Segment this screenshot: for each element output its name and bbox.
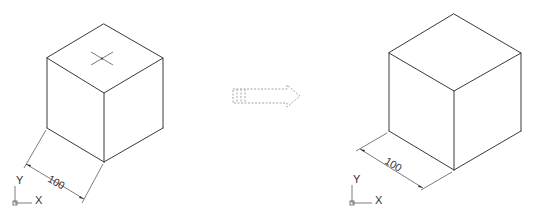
left-cube-edge <box>47 128 104 162</box>
right-ucs-icon <box>350 185 372 205</box>
right-dimension-label: 100 <box>383 154 404 173</box>
diagram-canvas: 100 Y X <box>0 0 534 220</box>
left-dimension-label: 100 <box>46 172 67 191</box>
left-ucs-x-label: X <box>35 194 43 206</box>
right-cube-edge <box>454 131 521 170</box>
diagram-svg: 100 Y X <box>0 0 534 220</box>
left-cube <box>47 24 163 162</box>
left-cube-top-face <box>47 24 163 93</box>
right-ucs-y-label: Y <box>353 173 361 185</box>
dashed-right-arrow-icon <box>233 85 300 107</box>
right-dimension <box>356 133 452 190</box>
left-ucs-y-label: Y <box>16 174 24 186</box>
left-ucs-icon <box>13 186 32 205</box>
right-ucs-x-label: X <box>375 194 383 206</box>
right-cube <box>389 14 521 170</box>
center-cross-icon <box>91 52 113 65</box>
left-dimension <box>24 130 103 203</box>
right-cube-top-face <box>389 14 521 91</box>
left-cube-edge <box>104 128 163 162</box>
